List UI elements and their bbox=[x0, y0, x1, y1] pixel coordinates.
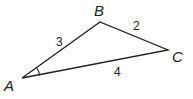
vertex-label-a: A bbox=[3, 77, 14, 94]
triangle-abc bbox=[22, 22, 168, 78]
angle-a-arc bbox=[37, 68, 40, 76]
vertex-label-c: C bbox=[172, 48, 183, 65]
side-label-ab: 3 bbox=[56, 35, 63, 49]
side-label-bc: 2 bbox=[133, 19, 140, 33]
vertex-label-b: B bbox=[94, 2, 104, 19]
side-label-ac: 4 bbox=[114, 65, 121, 79]
triangle-diagram: B C A 3 2 4 bbox=[0, 0, 193, 99]
